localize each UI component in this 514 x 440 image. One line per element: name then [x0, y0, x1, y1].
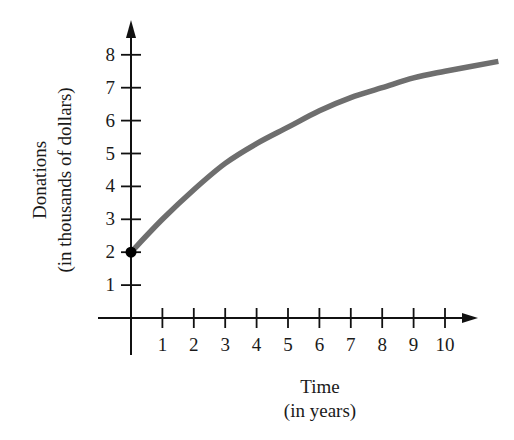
- y-tick-label: 8: [106, 44, 116, 65]
- x-tick-label: 6: [315, 334, 325, 355]
- y-axis-title-main: Donations: [29, 141, 50, 219]
- y-tick-label: 4: [106, 175, 116, 196]
- x-tick-label: 8: [377, 334, 387, 355]
- axes: [98, 20, 478, 355]
- y-axis-arrow-icon: [126, 20, 136, 38]
- x-tick-label: 5: [283, 334, 293, 355]
- y-axis-ticks: 12345678: [106, 44, 142, 295]
- x-tick-label: 3: [220, 334, 230, 355]
- x-axis-title: Time (in years): [284, 376, 356, 422]
- x-tick-label: 7: [346, 334, 356, 355]
- x-axis-title-main: Time: [300, 376, 339, 397]
- y-tick-label: 1: [106, 274, 116, 295]
- x-tick-label: 4: [252, 334, 262, 355]
- y-axis-title-sub: (in thousands of dollars): [54, 87, 76, 272]
- x-tick-label: 10: [436, 334, 455, 355]
- initial-point-marker: [126, 247, 137, 258]
- donations-curve: [131, 61, 498, 252]
- donations-chart: 12345678 12345678910 Time (in years) Don…: [0, 0, 514, 440]
- y-tick-label: 6: [106, 110, 116, 131]
- x-tick-label: 1: [158, 334, 168, 355]
- y-tick-label: 2: [106, 241, 116, 262]
- x-axis-title-sub: (in years): [284, 400, 356, 422]
- y-axis-title: Donations (in thousands of dollars): [29, 87, 76, 272]
- x-axis-ticks: 12345678910: [158, 308, 455, 355]
- y-tick-label: 7: [106, 77, 116, 98]
- y-tick-label: 5: [106, 143, 116, 164]
- x-tick-label: 9: [409, 334, 419, 355]
- x-tick-label: 2: [189, 334, 199, 355]
- y-tick-label: 3: [106, 208, 116, 229]
- x-axis-arrow-icon: [462, 313, 478, 323]
